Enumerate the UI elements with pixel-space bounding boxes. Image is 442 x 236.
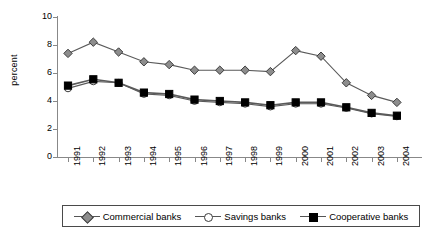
legend-label: Commercial banks bbox=[103, 211, 182, 222]
chart-legend: Commercial banksSavings banksCooperative… bbox=[62, 205, 420, 227]
diamond-marker-icon bbox=[140, 58, 148, 66]
square-marker-icon bbox=[343, 104, 350, 111]
diamond-marker-icon bbox=[165, 60, 173, 68]
square-marker-icon bbox=[166, 90, 173, 97]
legend-label: Savings banks bbox=[224, 211, 286, 222]
square-marker-icon bbox=[64, 82, 71, 89]
diamond-marker-icon bbox=[64, 49, 72, 57]
diamond-marker-icon bbox=[74, 211, 100, 222]
legend-item-savings-banks[interactable]: Savings banks bbox=[195, 211, 286, 222]
diamond-marker-icon bbox=[216, 66, 224, 74]
square-marker-icon bbox=[216, 97, 223, 104]
chart-container: percent 0246810 199119921993199419951996… bbox=[0, 0, 442, 236]
square-marker-icon bbox=[368, 109, 375, 116]
square-marker-icon bbox=[115, 79, 122, 86]
circle-marker-icon bbox=[195, 211, 221, 222]
square-marker-icon bbox=[90, 76, 97, 83]
square-marker-icon bbox=[140, 89, 147, 96]
diamond-marker-icon bbox=[241, 66, 249, 74]
legend-item-cooperative-banks[interactable]: Cooperative banks bbox=[300, 211, 408, 222]
series-commercial-banks bbox=[64, 38, 401, 107]
square-marker-icon bbox=[267, 102, 274, 109]
diamond-marker-icon bbox=[114, 48, 122, 56]
square-marker-icon bbox=[317, 99, 324, 106]
square-marker-icon bbox=[393, 112, 400, 119]
chart-plot-area bbox=[0, 0, 442, 236]
diamond-marker-icon bbox=[367, 91, 375, 99]
diamond-marker-icon bbox=[190, 66, 198, 74]
square-marker-icon bbox=[242, 99, 249, 106]
square-marker-icon bbox=[292, 99, 299, 106]
legend-item-commercial-banks[interactable]: Commercial banks bbox=[74, 211, 182, 222]
square-marker-icon bbox=[191, 96, 198, 103]
square-marker-icon bbox=[300, 211, 326, 222]
legend-label: Cooperative banks bbox=[329, 211, 408, 222]
diamond-marker-icon bbox=[393, 98, 401, 106]
diamond-marker-icon bbox=[89, 38, 97, 46]
